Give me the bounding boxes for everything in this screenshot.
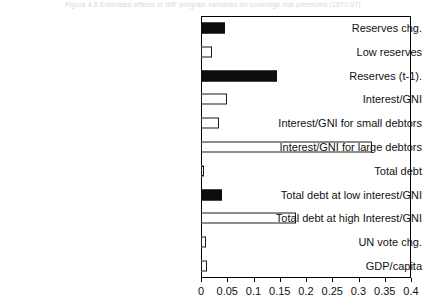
figure-caption: Figure 4.6 Estimated effects of IMF prog… (0, 0, 426, 10)
category-label: UN vote chg. (228, 236, 426, 248)
x-axis-tick-labels: 00.050.10.150.20.250.30.350.4 (0, 284, 426, 300)
bar (201, 22, 225, 33)
category-label: Total debt (228, 165, 426, 177)
x-tick (411, 278, 412, 282)
x-tick (254, 278, 255, 282)
category-label: GDP/capita (228, 260, 426, 272)
figure-container: Figure 4.6 Estimated effects of IMF prog… (0, 0, 426, 307)
x-tick (306, 278, 307, 282)
bar (201, 46, 212, 57)
category-label: Reserves chg. (228, 22, 426, 34)
x-tick (385, 278, 386, 282)
bar (201, 94, 227, 105)
bar (201, 118, 219, 129)
x-tick-label: 0.4 (391, 284, 426, 298)
category-label: Reserves (t-1). (228, 70, 426, 82)
category-label: Total debt at high Interest/GNI (228, 212, 426, 224)
category-label: Interest/GNI for large debtors (228, 141, 426, 153)
category-label: Total debt at low interest/GNI (228, 189, 426, 201)
x-tick (359, 278, 360, 282)
x-tick (280, 278, 281, 282)
bar (201, 165, 204, 176)
bar (201, 261, 207, 272)
bar (201, 237, 206, 248)
x-tick (201, 278, 202, 282)
x-axis-ticks (201, 278, 411, 283)
category-label: Interest/GNI for small debtors (228, 117, 426, 129)
x-tick (227, 278, 228, 282)
category-label: Low reserves (228, 46, 426, 58)
x-tick (332, 278, 333, 282)
bar (201, 189, 222, 200)
category-label: Interest/GNI (228, 93, 426, 105)
